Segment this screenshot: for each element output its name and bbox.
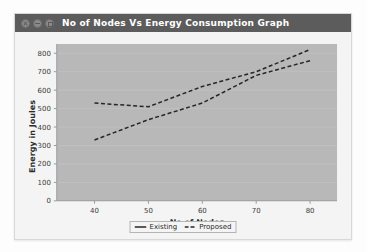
y-tick-label: 800 <box>38 50 51 58</box>
close-icon[interactable] <box>21 19 30 28</box>
y-tick-label: 400 <box>38 124 51 132</box>
x-tick-label: 60 <box>198 207 207 215</box>
x-tick-label: 50 <box>144 207 153 215</box>
x-tick-label: 70 <box>252 207 261 215</box>
chart-legend: Existing Proposed <box>130 221 237 233</box>
minimize-icon[interactable] <box>33 19 42 28</box>
x-tick-label: 40 <box>90 207 99 215</box>
legend-label-existing: Existing <box>150 223 178 231</box>
y-tick-label: 300 <box>38 142 51 150</box>
window-title: No of Nodes Vs Energy Consumption Graph <box>62 18 289 28</box>
x-axis-ticks: 4050607080 <box>90 201 314 215</box>
y-tick-label: 200 <box>38 160 51 168</box>
y-axis-ticks: 0100200300400500600700800 <box>38 50 57 206</box>
legend-item-existing: Existing <box>135 223 178 231</box>
y-tick-label: 0 <box>46 197 50 205</box>
chart-container: Energy in Joules 01002003004005006007008… <box>23 38 343 235</box>
x-tick-label: 80 <box>306 207 315 215</box>
window-titlebar[interactable]: No of Nodes Vs Energy Consumption Graph <box>15 14 351 32</box>
line-chart: Energy in Joules 01002003004005006007008… <box>23 38 343 235</box>
maximize-icon[interactable] <box>45 19 54 28</box>
legend-item-proposed: Proposed <box>184 223 231 231</box>
y-axis-title: Energy in Joules <box>28 100 37 173</box>
window-controls <box>21 19 54 28</box>
y-tick-label: 100 <box>38 179 51 187</box>
screenshot-root: No of Nodes Vs Energy Consumption Graph … <box>0 0 367 252</box>
legend-swatch-dashed-icon <box>184 224 196 230</box>
legend-swatch-solid-icon <box>135 224 147 230</box>
window-body: Energy in Joules 01002003004005006007008… <box>15 32 351 239</box>
legend-label-proposed: Proposed <box>199 223 231 231</box>
y-tick-label: 600 <box>38 87 51 95</box>
chart-window: No of Nodes Vs Energy Consumption Graph … <box>14 13 352 240</box>
y-tick-label: 500 <box>38 105 51 113</box>
y-tick-label: 700 <box>38 68 51 76</box>
plot-background <box>57 44 337 201</box>
